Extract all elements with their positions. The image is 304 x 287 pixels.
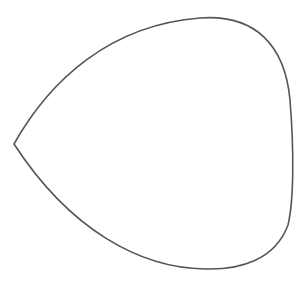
drawing-canvas — [0, 0, 304, 287]
teardrop-shape-outline — [14, 18, 293, 269]
teardrop-outline-figure — [0, 0, 304, 287]
